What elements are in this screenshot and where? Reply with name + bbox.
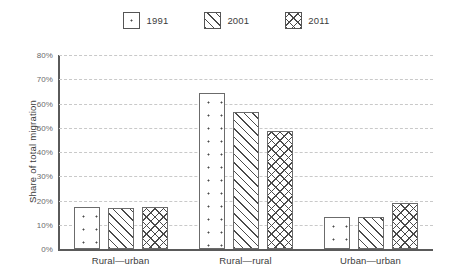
x-category-label: Rural—rural [219, 255, 271, 266]
legend-label-1991: 1991 [146, 15, 168, 26]
bar-2011-1[interactable] [142, 207, 168, 249]
gridline [59, 104, 433, 105]
legend-swatch-diagonal-icon [204, 12, 221, 29]
y-tick-label: 60% [37, 99, 53, 108]
x-category-label: Rural—urban [92, 255, 150, 266]
gridline [59, 55, 433, 56]
bar-2001-3[interactable] [358, 217, 384, 249]
bar-2001-2[interactable] [233, 112, 259, 249]
legend-item-1991[interactable]: 1991 [123, 12, 168, 29]
legend-label-2011: 2011 [308, 15, 329, 26]
legend-swatch-dotted-icon [123, 12, 140, 29]
bar-chart: 1991 2001 2011 Share of total migration … [0, 0, 453, 280]
y-tick-label: 70% [37, 75, 53, 84]
legend-item-2001[interactable]: 2001 [204, 12, 249, 29]
chart-legend: 1991 2001 2011 [0, 12, 453, 29]
bar-2011-2[interactable] [267, 131, 293, 249]
y-tick-label: 80% [37, 51, 53, 60]
y-tick-label: 10% [37, 220, 53, 229]
bar-2011-3[interactable] [392, 203, 418, 249]
y-tick-label: 40% [37, 148, 53, 157]
legend-label-2001: 2001 [227, 15, 249, 26]
bar-1991-3[interactable] [324, 217, 350, 249]
bar-1991-2[interactable] [199, 93, 225, 249]
legend-swatch-crosshatch-icon [285, 12, 302, 29]
x-axis-line [58, 249, 433, 251]
gridline [59, 79, 433, 80]
y-tick-label: 30% [37, 172, 53, 181]
legend-item-2011[interactable]: 2011 [285, 12, 329, 29]
x-category-label: Urban—urban [340, 255, 401, 266]
plot-area-wrapper: 0%10%20%30%40%50%60%70%80% Rural—urbanRu… [58, 55, 433, 249]
y-tick-label: 50% [37, 123, 53, 132]
plot-area: 0%10%20%30%40%50%60%70%80% [58, 55, 433, 249]
bar-1991-1[interactable] [74, 207, 100, 249]
bar-2001-1[interactable] [108, 208, 134, 249]
y-tick-label: 0% [41, 245, 53, 254]
y-tick-label: 20% [37, 196, 53, 205]
